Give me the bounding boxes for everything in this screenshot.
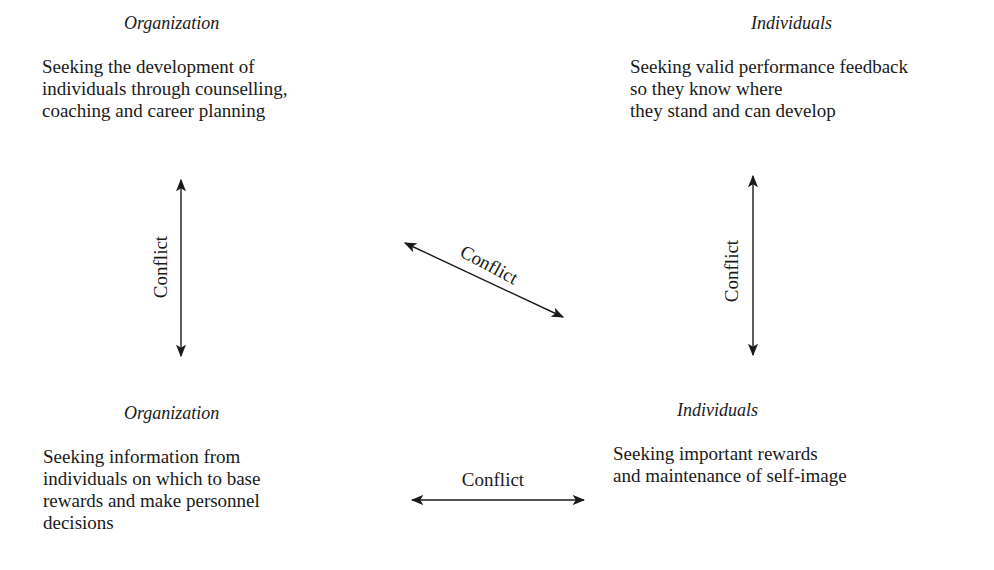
right-vertical-conflict-label: Conflict (721, 231, 743, 311)
left-vertical-conflict-label: Conflict (150, 227, 172, 307)
bottom-horizontal-conflict-label: Conflict (453, 469, 533, 491)
